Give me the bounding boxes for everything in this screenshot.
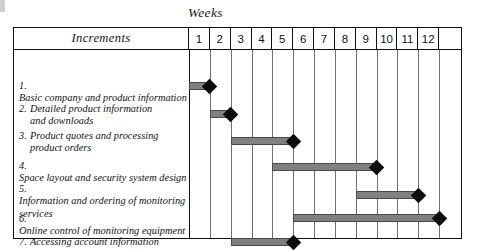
gantt-table: Increments 123456789101112 1.Basic compa… (13, 27, 462, 239)
week-header-10: 10 (377, 28, 398, 49)
gantt-bar-5 (356, 191, 419, 199)
gridline-week-6 (314, 50, 315, 238)
milestone-marker-2 (223, 106, 239, 122)
milestone-marker-3 (285, 133, 301, 149)
task-number-5: 5. (19, 183, 30, 195)
table-body: 1.Basic company and product information2… (14, 50, 461, 238)
milestone-marker-1 (202, 78, 218, 94)
header-increments-cell: Increments (14, 28, 189, 49)
task-label-6: 6.Online control of monitoring equipment (19, 213, 191, 238)
task-number-1: 1. (19, 80, 30, 92)
page-edge-artifact (0, 0, 5, 12)
chart-title: Weeks (188, 5, 308, 21)
table-header-row: Increments 123456789101112 (14, 28, 461, 50)
gantt-bar-3 (231, 137, 294, 145)
week-header-5: 5 (272, 28, 293, 49)
gantt-bar-7 (231, 238, 294, 246)
gantt-bar-6 (293, 214, 439, 222)
week-header-6: 6 (293, 28, 314, 49)
gridline-week-8 (356, 50, 357, 238)
milestone-marker-7 (285, 234, 301, 250)
task-text-2: Detailed product informationand download… (30, 103, 152, 128)
week-header-12: 12 (418, 28, 439, 49)
task-number-3: 3. (19, 130, 30, 142)
task-number-2: 2. (19, 103, 30, 115)
task-text-7: Accessing account information (30, 236, 159, 248)
task-number-4: 4. (19, 160, 30, 172)
header-increments-label: Increments (71, 31, 130, 46)
milestone-marker-4 (369, 159, 385, 175)
week-header-blank (439, 28, 460, 49)
gridline-week-1 (210, 50, 211, 238)
gridline-week-9 (377, 50, 378, 238)
week-header-3: 3 (231, 28, 252, 49)
gridline-week-10 (397, 50, 398, 238)
task-label-4: 4.Space layout and security system desig… (19, 160, 191, 185)
week-header-7: 7 (314, 28, 335, 49)
week-header-2: 2 (210, 28, 231, 49)
week-header-11: 11 (397, 28, 418, 49)
task-number-6: 6. (19, 213, 30, 225)
milestone-marker-5 (411, 187, 427, 203)
task-label-3: 3.Product quotes and processingproduct o… (19, 130, 191, 155)
week-header-8: 8 (335, 28, 356, 49)
task-text-3: Product quotes and processingproduct ord… (30, 130, 159, 155)
week-header-1: 1 (189, 28, 210, 49)
task-number-7: 7. (19, 236, 30, 248)
gantt-bar-4 (272, 163, 376, 171)
task-label-7: 7.Accessing account information (19, 236, 191, 248)
task-label-2: 2.Detailed product informationand downlo… (19, 103, 191, 128)
week-header-4: 4 (252, 28, 273, 49)
gridline-week-11 (418, 50, 419, 238)
milestone-marker-6 (431, 210, 447, 226)
gridline-week-7 (335, 50, 336, 238)
week-header-9: 9 (356, 28, 377, 49)
task-label-1: 1.Basic company and product information (19, 80, 191, 105)
